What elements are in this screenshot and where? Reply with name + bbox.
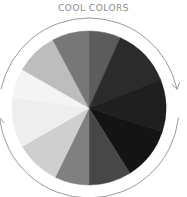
color-wheel [0,0,187,197]
wheel-segments [12,31,166,185]
color-wheel-diagram: COOL COLORS [0,0,187,197]
